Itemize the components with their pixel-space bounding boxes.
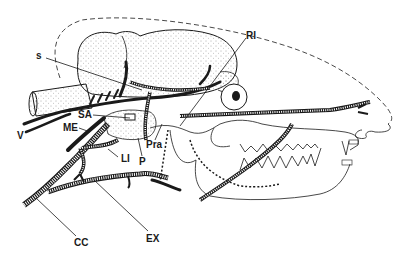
label-ri: RI xyxy=(246,31,256,41)
label-p: P xyxy=(139,157,146,167)
label-ex: EX xyxy=(146,234,159,244)
label-sa: SA xyxy=(78,110,92,120)
tympanic-region xyxy=(104,110,156,140)
label-li: LI xyxy=(121,154,130,164)
label-cc: CC xyxy=(74,238,88,248)
label-me: ME xyxy=(63,123,78,133)
label-s: s xyxy=(36,51,42,61)
snout-outline xyxy=(355,124,390,139)
anatomical-diagram xyxy=(0,0,409,264)
label-v: V xyxy=(17,131,24,141)
eye xyxy=(221,84,247,110)
label-pra: Pra xyxy=(146,140,162,150)
